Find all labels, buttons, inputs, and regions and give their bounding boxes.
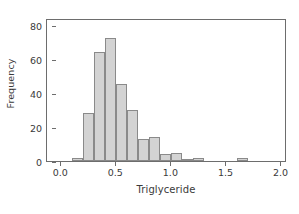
histogram-bars	[47, 20, 285, 161]
y-axis-tick-label: 60	[22, 54, 42, 65]
histogram-bar	[182, 159, 193, 161]
y-axis-title-text: Frequency	[6, 58, 17, 108]
histogram-bar	[171, 153, 182, 162]
y-axis-tick-label: 20	[22, 122, 42, 133]
x-axis-tick-mark	[170, 162, 171, 166]
y-axis-tick-label: 80	[22, 20, 42, 31]
histogram-bar	[105, 38, 116, 161]
histogram-bar	[160, 154, 171, 161]
x-axis-tick-mark	[280, 162, 281, 166]
y-axis-tick-mark	[52, 26, 56, 27]
histogram-bar	[149, 137, 160, 161]
histogram-bar	[127, 110, 138, 161]
histogram-bar	[116, 84, 127, 161]
histogram-bar	[193, 158, 204, 161]
y-axis-tick-labels: 020406080	[18, 0, 42, 214]
x-axis-tick-label: 2.0	[263, 167, 297, 178]
x-axis-tick-label: 1.5	[208, 167, 242, 178]
x-axis-tick-label: 1.0	[153, 167, 187, 178]
histogram-bar	[94, 52, 105, 161]
histogram-bar	[138, 139, 149, 161]
y-axis-tick-label: 40	[22, 88, 42, 99]
histogram-bar	[83, 113, 94, 161]
x-axis-tick-mark	[115, 162, 116, 166]
y-axis-tick-label: 0	[22, 157, 42, 168]
y-axis-tick-mark	[52, 94, 56, 95]
y-axis-tick-mark	[52, 162, 56, 163]
x-axis-tick-label: 0.5	[98, 167, 132, 178]
x-axis-tick-label: 0.0	[43, 167, 77, 178]
plot-area	[46, 19, 286, 162]
histogram-bar	[72, 158, 83, 161]
x-axis-tick-mark	[225, 162, 226, 166]
histogram-figure: Frequency 020406080 Triglyceride 0.00.51…	[0, 0, 299, 214]
y-axis-tick-mark	[52, 128, 56, 129]
histogram-bar	[237, 158, 248, 161]
x-axis-tick-mark	[60, 162, 61, 166]
x-axis-title: Triglyceride	[46, 184, 286, 195]
y-axis-tick-mark	[52, 60, 56, 61]
